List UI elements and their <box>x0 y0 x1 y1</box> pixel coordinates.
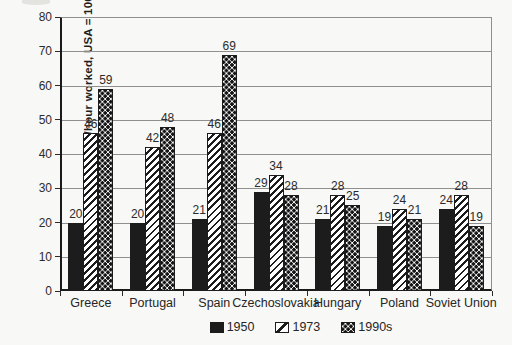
bar-value-label: 59 <box>99 73 112 87</box>
bar-value-label: 46 <box>84 117 97 131</box>
grid-line <box>62 51 491 52</box>
x-tick-mark <box>245 291 246 296</box>
bar-value-label: 42 <box>146 131 159 145</box>
x-tick-mark <box>307 291 308 296</box>
bar-portugal-1973 <box>145 147 160 291</box>
legend-swatch-1990s <box>341 322 355 333</box>
x-category-label-portugal: Portugal <box>129 296 176 311</box>
grid-line <box>62 86 491 87</box>
y-tick-label: 40 <box>22 146 52 162</box>
bar-spain-1990s <box>222 55 237 291</box>
bar-czechoslovakia-1950 <box>254 192 269 291</box>
bar-spain-1973 <box>207 133 222 291</box>
legend-item-1990s: 1990s <box>341 320 392 334</box>
bar-value-label: 21 <box>408 203 421 217</box>
legend-swatch-1973 <box>275 322 289 333</box>
bar-value-label: 28 <box>284 179 297 193</box>
bar-value-label: 21 <box>193 203 206 217</box>
bar-value-label: 46 <box>208 117 221 131</box>
x-tick-mark <box>369 291 370 296</box>
legend-item-1973: 1973 <box>275 320 320 334</box>
x-tick-mark <box>430 291 431 296</box>
legend-label-1950: 1950 <box>227 320 255 334</box>
bar-value-label: 48 <box>161 111 174 125</box>
bar-poland-1990s <box>407 219 422 291</box>
x-category-label-hungary: Hungary <box>314 296 361 311</box>
bar-greece-1950 <box>68 223 83 292</box>
bar-value-label: 20 <box>69 207 82 221</box>
grid-line <box>62 154 491 155</box>
bar-hungary-1990s <box>345 205 360 291</box>
bar-greece-1973 <box>83 133 98 291</box>
bar-value-label: 25 <box>346 189 359 203</box>
x-tick-mark <box>492 291 493 296</box>
legend: 195019731990s <box>90 318 512 336</box>
bar-value-label: 34 <box>269 159 282 173</box>
x-tick-mark <box>60 291 61 296</box>
y-tick-label: 30 <box>22 180 52 196</box>
x-category-label-czechoslovakia: Czechoslovakia <box>232 296 320 311</box>
bar-value-label: 28 <box>454 179 467 193</box>
bar-portugal-1950 <box>130 223 145 292</box>
bar-soviet-union-1990s <box>469 226 484 291</box>
x-category-label-soviet-union: Soviet Union <box>426 296 497 311</box>
bar-value-label: 19 <box>378 210 391 224</box>
bar-chart: GDP/hour worked, USA = 100 195019731990s… <box>0 0 512 345</box>
bar-value-label: 24 <box>439 193 452 207</box>
bar-poland-1973 <box>392 209 407 291</box>
bar-value-label: 29 <box>254 176 267 190</box>
y-tick-label: 10 <box>22 249 52 265</box>
bar-value-label: 21 <box>316 203 329 217</box>
scan-artifact <box>22 0 50 5</box>
x-tick-mark <box>183 291 184 296</box>
y-tick-label: 70 <box>22 43 52 59</box>
legend-label-1973: 1973 <box>292 320 320 334</box>
bar-spain-1950 <box>192 219 207 291</box>
bar-value-label: 69 <box>223 39 236 53</box>
bar-value-label: 28 <box>331 179 344 193</box>
y-tick-mark <box>55 119 60 120</box>
legend-swatch-1950 <box>210 322 224 333</box>
bar-soviet-union-1973 <box>454 195 469 291</box>
bar-greece-1990s <box>98 89 113 291</box>
bar-hungary-1973 <box>330 195 345 291</box>
y-tick-label: 20 <box>22 215 52 231</box>
grid-line <box>62 120 491 121</box>
legend-label-1990s: 1990s <box>358 320 392 334</box>
bar-czechoslovakia-1990s <box>284 195 299 291</box>
x-category-label-spain: Spain <box>198 296 230 311</box>
x-category-label-greece: Greece <box>70 296 111 311</box>
y-tick-mark <box>55 17 60 18</box>
y-tick-mark <box>55 51 60 52</box>
bar-czechoslovakia-1973 <box>269 175 284 291</box>
y-tick-mark <box>55 154 60 155</box>
y-tick-label: 80 <box>22 9 52 25</box>
bar-soviet-union-1950 <box>439 209 454 291</box>
legend-item-1950: 1950 <box>210 320 255 334</box>
y-tick-label: 50 <box>22 112 52 128</box>
y-tick-label: 0 <box>22 283 52 299</box>
bar-value-label: 20 <box>131 207 144 221</box>
y-tick-mark <box>55 222 60 223</box>
bar-poland-1950 <box>377 226 392 291</box>
bar-value-label: 24 <box>393 193 406 207</box>
y-tick-mark <box>55 188 60 189</box>
bar-value-label: 19 <box>469 210 482 224</box>
bar-hungary-1950 <box>315 219 330 291</box>
x-tick-mark <box>122 291 123 296</box>
y-tick-mark <box>55 256 60 257</box>
y-tick-mark <box>55 85 60 86</box>
bar-portugal-1990s <box>160 127 175 291</box>
x-category-label-poland: Poland <box>380 296 419 311</box>
y-tick-label: 60 <box>22 78 52 94</box>
